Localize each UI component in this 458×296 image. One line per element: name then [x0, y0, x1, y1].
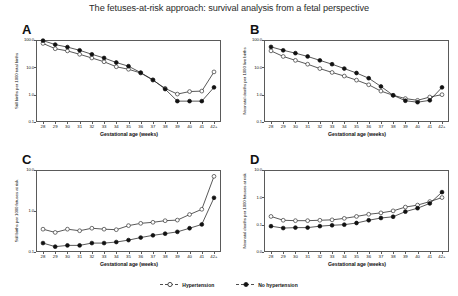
x-tick-mark — [393, 252, 394, 254]
x-tick-mark — [80, 122, 81, 124]
legend-item: Hypertension — [160, 281, 214, 289]
y-tick-mark — [262, 95, 264, 96]
x-tick-label: 42+ — [435, 124, 449, 129]
x-tick-mark — [141, 252, 142, 254]
x-tick-mark — [295, 122, 296, 124]
plot-frame-c — [36, 170, 221, 252]
x-tick-mark — [92, 252, 93, 254]
y-tick-mark — [34, 122, 36, 123]
x-tick-mark — [357, 122, 358, 124]
y-tick-label: 0.1 — [17, 249, 34, 254]
legend-label: No hypertension — [258, 282, 297, 288]
x-tick-mark — [55, 252, 56, 254]
x-tick-mark — [381, 122, 382, 124]
y-tick-label: 100.0 — [17, 37, 34, 42]
x-tick-mark — [190, 122, 191, 124]
y-tick-mark — [34, 40, 36, 41]
x-tick-mark — [214, 252, 215, 254]
legend-item: No hypertension — [236, 281, 297, 289]
x-tick-mark — [430, 122, 431, 124]
x-tick-mark — [153, 252, 154, 254]
y-tick-label: 0.1 — [17, 119, 34, 124]
x-tick-mark — [214, 122, 215, 124]
x-tick-mark — [344, 122, 345, 124]
legend-label: Hypertension — [182, 282, 214, 288]
x-tick-mark — [405, 252, 406, 254]
x-tick-mark — [442, 252, 443, 254]
x-tick-mark — [271, 252, 272, 254]
x-axis-label-a: Gestational age (weeks) — [30, 131, 228, 137]
y-tick-mark — [262, 252, 264, 253]
y-tick-mark — [262, 197, 264, 198]
filled-circle-icon — [236, 281, 256, 289]
x-tick-mark — [129, 252, 130, 254]
y-tick-label: 1.0 — [245, 195, 262, 200]
x-tick-mark — [320, 122, 321, 124]
y-tick-label: 10.0 — [17, 65, 34, 70]
x-tick-mark — [332, 252, 333, 254]
y-tick-label: 100.0 — [245, 37, 262, 42]
y-tick-mark — [262, 122, 264, 123]
x-tick-mark — [55, 122, 56, 124]
x-tick-mark — [104, 122, 105, 124]
x-tick-mark — [418, 122, 419, 124]
x-tick-mark — [116, 252, 117, 254]
x-tick-mark — [393, 122, 394, 124]
x-tick-mark — [405, 122, 406, 124]
x-tick-mark — [271, 122, 272, 124]
x-tick-mark — [43, 252, 44, 254]
x-tick-label: 42+ — [207, 124, 221, 129]
panel-letter-d: D — [250, 152, 259, 167]
y-tick-mark — [262, 40, 264, 41]
x-tick-mark — [430, 252, 431, 254]
panel-letter-a: A — [22, 22, 31, 37]
x-tick-mark — [67, 122, 68, 124]
x-tick-mark — [202, 252, 203, 254]
y-axis-label-a: Still births per 1000 total births — [14, 40, 19, 122]
y-tick-mark — [34, 252, 36, 253]
x-tick-mark — [442, 122, 443, 124]
y-tick-mark — [262, 225, 264, 226]
x-tick-mark — [418, 252, 419, 254]
x-tick-mark — [308, 252, 309, 254]
y-tick-mark — [34, 170, 36, 171]
x-tick-mark — [165, 122, 166, 124]
x-tick-mark — [92, 122, 93, 124]
y-tick-label: 10.0 — [245, 65, 262, 70]
x-axis-label-d: Gestational age (weeks) — [258, 261, 456, 267]
y-tick-label: 1.0 — [17, 92, 34, 97]
x-tick-mark — [283, 252, 284, 254]
open-circle-icon — [160, 281, 180, 289]
y-tick-mark — [34, 95, 36, 96]
x-tick-mark — [177, 252, 178, 254]
y-tick-label: 0.1 — [245, 222, 262, 227]
chart-legend: HypertensionNo hypertension — [0, 281, 458, 289]
y-tick-label: 1.0 — [245, 92, 262, 97]
y-axis-label-b: Neonatal deaths per 1000 live births — [242, 40, 247, 122]
panel-letter-b: B — [250, 22, 259, 37]
x-tick-mark — [369, 252, 370, 254]
y-axis-label-d: Neonatal deaths per 1000 fetuses at risk — [242, 170, 247, 252]
y-tick-label: 0.0 — [245, 249, 262, 254]
x-tick-mark — [344, 252, 345, 254]
x-tick-mark — [357, 252, 358, 254]
y-tick-mark — [34, 211, 36, 212]
x-tick-mark — [165, 252, 166, 254]
y-tick-label: 1.0 — [17, 208, 34, 213]
y-tick-label: 10.0 — [17, 167, 34, 172]
plot-frame-a — [36, 40, 221, 122]
y-tick-mark — [262, 170, 264, 171]
x-tick-mark — [177, 122, 178, 124]
x-tick-mark — [190, 252, 191, 254]
x-tick-mark — [295, 252, 296, 254]
x-tick-mark — [381, 252, 382, 254]
x-tick-mark — [369, 122, 370, 124]
x-axis-label-b: Gestational age (weeks) — [258, 131, 456, 137]
x-tick-mark — [202, 122, 203, 124]
plot-frame-d — [264, 170, 449, 252]
x-tick-label: 42+ — [207, 254, 221, 259]
x-axis-label-c: Gestational age (weeks) — [30, 261, 228, 267]
x-tick-mark — [308, 122, 309, 124]
y-tick-mark — [34, 67, 36, 68]
x-tick-mark — [116, 122, 117, 124]
